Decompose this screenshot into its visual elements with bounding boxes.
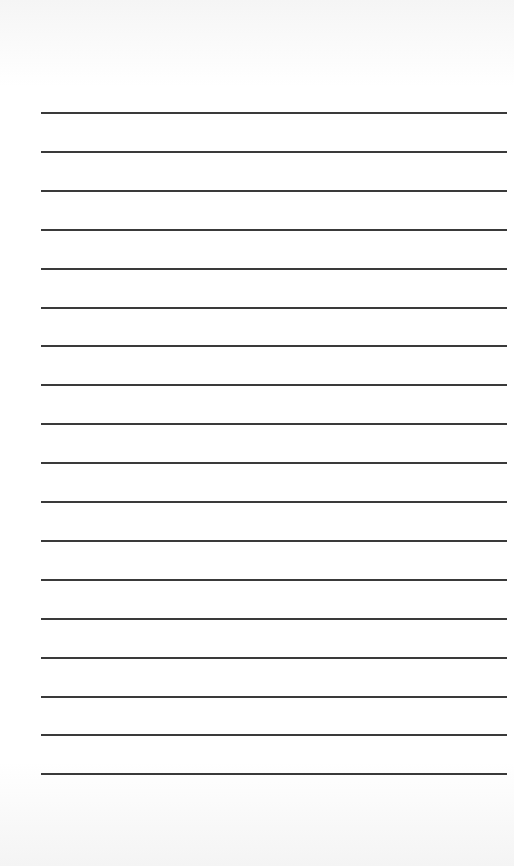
- ruled-line: [41, 345, 507, 347]
- ruled-line: [41, 423, 507, 425]
- ruled-line: [41, 540, 507, 542]
- ruled-line: [41, 151, 507, 153]
- ruled-line: [41, 307, 507, 309]
- ruled-line: [41, 384, 507, 386]
- ruled-line: [41, 268, 507, 270]
- ruled-line: [41, 773, 507, 775]
- ruled-line: [41, 734, 507, 736]
- ruled-line: [41, 112, 507, 114]
- ruled-line: [41, 501, 507, 503]
- ruled-line: [41, 190, 507, 192]
- lined-paper-sheet: [0, 0, 514, 866]
- ruled-line: [41, 696, 507, 698]
- ruled-line: [41, 229, 507, 231]
- ruled-line: [41, 657, 507, 659]
- ruled-line: [41, 579, 507, 581]
- ruled-line: [41, 462, 507, 464]
- ruled-line: [41, 618, 507, 620]
